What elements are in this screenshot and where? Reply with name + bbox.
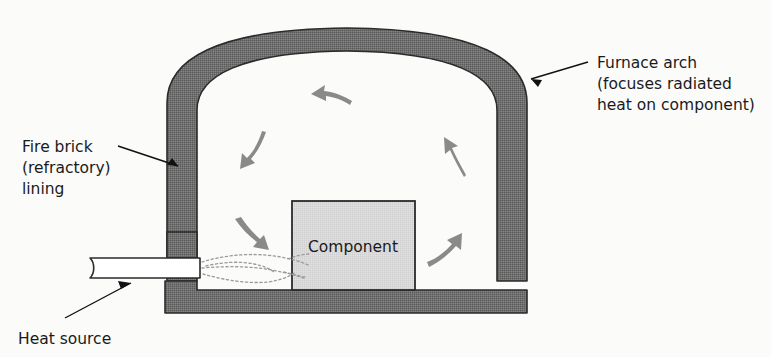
fire-brick-label-line2: (refractory) — [22, 159, 111, 177]
arrow-lower-right-upward — [427, 233, 462, 267]
component-label: Component — [308, 238, 398, 256]
arrow-lower-left-downward — [235, 217, 269, 250]
heat-source-leader-line — [65, 281, 131, 318]
heat-source-label-line1: Heat source — [18, 330, 111, 348]
furnace-cross-section-diagram: Component — [0, 0, 771, 357]
left-refractory-wall-stub — [167, 232, 197, 258]
fire-brick-label-line3: lining — [22, 180, 64, 198]
fire-brick-label-line1: Fire brick — [22, 138, 93, 156]
furnace-arch-label-line3: heat on component) — [597, 96, 755, 114]
arrow-top-leftward — [311, 85, 352, 105]
furnace-arch-label-line2: (focuses radiated — [597, 75, 732, 93]
arrow-right-upward — [444, 137, 466, 177]
furnace-arch-leader-line — [531, 62, 588, 87]
arrow-upper-left-downward — [240, 131, 266, 169]
burner-tube — [90, 258, 200, 278]
furnace-arch-label-line1: Furnace arch — [597, 54, 697, 72]
